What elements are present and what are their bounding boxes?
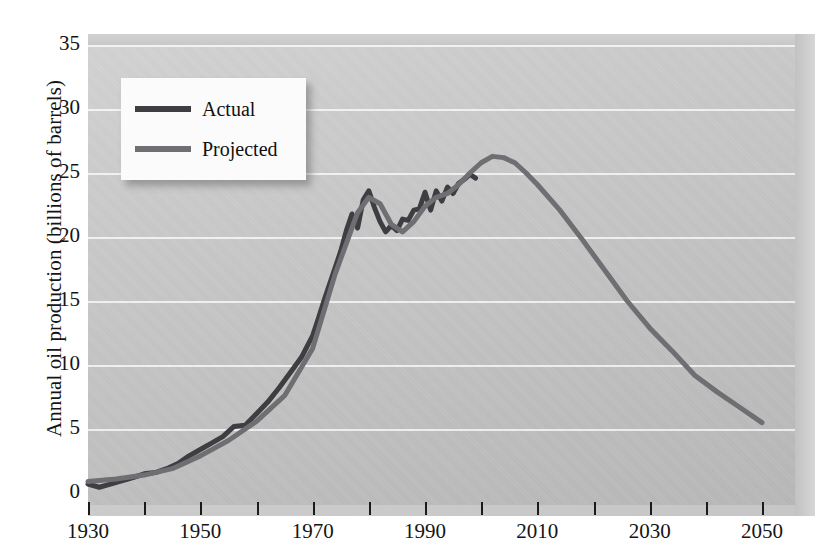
x-tick-label-2050: 2050 [722, 519, 802, 544]
legend-item-actual: Actual [135, 94, 255, 124]
x-tick-mark-2000 [481, 502, 483, 515]
x-tick-mark-2050 [762, 502, 764, 515]
x-tick-label-2010: 2010 [497, 519, 577, 544]
x-tick-mark-1960 [257, 502, 259, 515]
series-line-actual [88, 174, 476, 487]
chart-legend: Actual Projected [121, 78, 306, 180]
x-tick-label-2030: 2030 [610, 519, 690, 544]
y-tick-label-0: 0 [36, 479, 80, 504]
x-tick-mark-1970 [313, 502, 315, 515]
x-tick-mark-2010 [537, 502, 539, 515]
x-tick-mark-2030 [650, 502, 652, 515]
x-tick-mark-1990 [425, 502, 427, 515]
y-tick-label-25: 25 [36, 159, 80, 184]
legend-label-actual: Actual [202, 99, 255, 119]
y-tick-label-30: 30 [36, 95, 80, 120]
y-tick-label-10: 10 [36, 351, 80, 376]
series-line-projected [88, 156, 762, 481]
x-tick-mark-1950 [200, 502, 202, 515]
y-tick-label-35: 35 [36, 31, 80, 56]
x-tick-label-1930: 1930 [48, 519, 128, 544]
x-tick-label-1950: 1950 [160, 519, 240, 544]
x-tick-mark-2040 [706, 502, 708, 515]
legend-item-projected: Projected [135, 134, 278, 164]
x-tick-mark-1980 [369, 502, 371, 515]
y-tick-label-5: 5 [36, 415, 80, 440]
x-tick-label-1970: 1970 [273, 519, 353, 544]
x-tick-mark-2020 [594, 502, 596, 515]
x-tick-label-1990: 1990 [385, 519, 465, 544]
x-tick-mark-1940 [144, 502, 146, 515]
x-tick-mark-1930 [88, 502, 90, 515]
y-tick-label-15: 15 [36, 287, 80, 312]
oil-production-chart-figure: Annual oil production (billions of barre… [0, 0, 827, 560]
legend-swatch-actual [135, 106, 191, 112]
y-tick-label-20: 20 [36, 223, 80, 248]
plot-backplate-right [795, 34, 815, 516]
legend-swatch-projected [135, 146, 191, 152]
legend-label-projected: Projected [202, 139, 278, 159]
